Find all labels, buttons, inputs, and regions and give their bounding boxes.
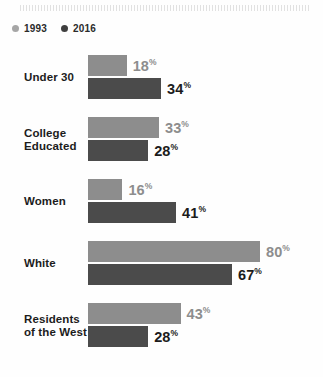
category-label-line: Under 30 [24, 71, 88, 85]
bar-2016: 34% [88, 78, 191, 99]
bar-value-2016: 41% [182, 204, 206, 221]
percent-symbol: % [203, 305, 211, 315]
percent-symbol: % [282, 243, 290, 253]
top-divider-rule [20, 5, 310, 11]
chart-row: White 80% 67% [0, 233, 323, 295]
bar-1993: 80% [88, 241, 290, 262]
category-label-line: Women [24, 195, 88, 209]
bar-rect-1993 [88, 117, 159, 138]
bar-2016: 41% [88, 202, 206, 223]
bar-1993: 16% [88, 179, 152, 200]
chart-row: Women 16% 41% [0, 171, 323, 233]
category-label: Residents of the West [0, 313, 88, 340]
bar-1993: 18% [88, 55, 157, 76]
category-label-line: College [24, 127, 88, 141]
percent-symbol: % [171, 142, 179, 152]
bar-2016: 28% [88, 326, 178, 347]
percent-symbol: % [198, 204, 206, 214]
percent-symbol: % [145, 181, 153, 191]
legend-label-1993: 1993 [24, 23, 47, 34]
bar-rect-2016 [88, 326, 148, 347]
bar-group: 16% 41% [88, 171, 323, 233]
bar-value-number: 80 [266, 244, 282, 260]
bar-2016: 28% [88, 140, 178, 161]
percent-symbol: % [149, 57, 157, 67]
legend-item-1993: 1993 [12, 23, 47, 34]
percent-symbol: % [181, 119, 189, 129]
bar-rect-2016 [88, 140, 148, 161]
bar-chart: 1993 2016 Under 30 18% 34% [0, 0, 323, 377]
percent-symbol: % [254, 266, 262, 276]
category-label-line: White [24, 257, 88, 271]
bar-rect-1993 [88, 179, 122, 200]
legend-dot-icon-2016 [61, 25, 68, 32]
bar-value-number: 34 [167, 81, 183, 97]
bar-value-number: 33 [165, 120, 181, 136]
bar-1993: 43% [88, 303, 211, 324]
chart-row: Residents of the West 43% 28% [0, 295, 323, 357]
chart-row: College Educated 33% 28% [0, 109, 323, 171]
bar-value-number: 18 [133, 58, 149, 74]
bar-value-1993: 80% [266, 243, 290, 260]
bar-value-number: 28 [154, 143, 170, 159]
bar-rect-1993 [88, 55, 127, 76]
percent-symbol: % [171, 328, 179, 338]
bar-rect-2016 [88, 202, 176, 223]
bar-value-1993: 33% [165, 119, 189, 136]
bar-2016: 67% [88, 264, 262, 285]
bar-value-number: 43 [187, 306, 203, 322]
bar-value-number: 16 [128, 182, 144, 198]
category-label-line: Educated [24, 140, 88, 154]
bar-value-1993: 18% [133, 57, 157, 74]
bar-1993: 33% [88, 117, 189, 138]
bar-rect-1993 [88, 303, 181, 324]
bar-value-number: 41 [182, 205, 198, 221]
bar-group: 43% 28% [88, 295, 323, 357]
legend-dot-icon-1993 [12, 25, 19, 32]
category-label: Under 30 [0, 71, 88, 85]
legend-item-2016: 2016 [61, 23, 96, 34]
legend-label-2016: 2016 [73, 23, 96, 34]
bar-rect-2016 [88, 78, 161, 99]
percent-symbol: % [183, 80, 191, 90]
category-label: College Educated [0, 127, 88, 154]
bar-group: 80% 67% [88, 233, 323, 295]
bar-group: 18% 34% [88, 47, 323, 109]
bar-value-number: 67 [238, 267, 254, 283]
chart-rows: Under 30 18% 34% College Educated [0, 47, 323, 357]
bar-group: 33% 28% [88, 109, 323, 171]
bar-value-2016: 28% [154, 142, 178, 159]
bar-value-2016: 28% [154, 328, 178, 345]
bar-rect-2016 [88, 264, 232, 285]
chart-legend: 1993 2016 [12, 23, 96, 34]
category-label-line: Residents [24, 313, 88, 327]
category-label: Women [0, 195, 88, 209]
bar-value-1993: 16% [128, 181, 152, 198]
bar-value-1993: 43% [187, 305, 211, 322]
bar-value-2016: 34% [167, 80, 191, 97]
chart-row: Under 30 18% 34% [0, 47, 323, 109]
bar-value-2016: 67% [238, 266, 262, 283]
category-label-line: of the West [24, 326, 88, 340]
category-label: White [0, 257, 88, 271]
bar-rect-1993 [88, 241, 260, 262]
bar-value-number: 28 [154, 329, 170, 345]
